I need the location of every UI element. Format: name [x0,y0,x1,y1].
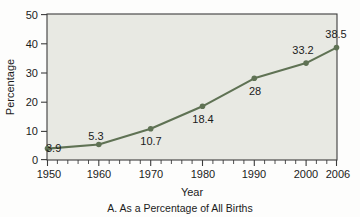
x-axis-minor-ticks [57,160,326,164]
figure-container: 50 40 30 20 10 0 Percentage [0,0,360,217]
x-axis-title: Year [181,186,204,198]
x-tick-label-1980: 1980 [191,168,215,180]
figure-caption: A. As a Percentage of All Births [107,202,252,214]
data-label-2006: 38.5 [325,28,346,40]
data-point-2006 [334,45,340,51]
x-tick-label-1950: 1950 [37,168,61,180]
data-label-1960: 5.3 [88,130,103,142]
data-point-1990 [252,76,258,82]
data-label-1980: 18.4 [192,113,213,125]
y-tick-label-0: 0 [32,154,38,166]
y-tick-label-20: 20 [26,96,38,108]
x-tick-label-2000: 2000 [294,168,318,180]
data-label-1950: 3.9 [46,142,61,154]
line-chart: 50 40 30 20 10 0 Percentage [0,0,360,217]
y-tick-label-10: 10 [26,125,38,137]
data-label-1990: 28 [249,85,261,97]
y-axis-ticks [41,15,47,160]
x-tick-label-1990: 1990 [242,168,266,180]
data-label-2000: 33.2 [292,44,313,56]
x-tick-label-1960: 1960 [87,168,111,180]
data-point-1970 [148,126,154,132]
x-axis-tick-labels: 1950 1960 1970 1980 1990 2000 2006 [37,168,350,180]
y-tick-label-40: 40 [26,38,38,50]
x-tick-label-1970: 1970 [139,168,163,180]
y-tick-label-30: 30 [26,67,38,79]
data-point-1980 [200,104,206,110]
y-tick-label-50: 50 [26,9,38,21]
x-tick-label-2006: 2006 [326,168,350,180]
y-axis-tick-labels: 50 40 30 20 10 0 [26,9,38,166]
data-label-1970: 10.7 [140,135,161,147]
data-point-1960 [96,142,102,148]
y-axis-title: Percentage [4,59,16,115]
data-point-2000 [303,60,309,66]
